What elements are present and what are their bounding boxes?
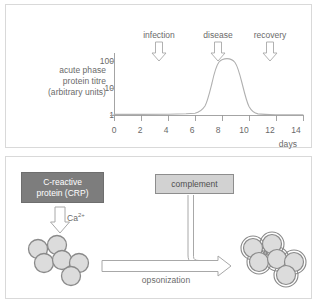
bacterium-circle (277, 266, 296, 285)
bacterial-cluster-unopsonized (29, 236, 89, 286)
crp-activation-down-arrow-icon (51, 207, 70, 233)
bacterium-circle (35, 254, 54, 273)
opsonization-block-arrow-icon (102, 256, 231, 276)
bacterium-circle (62, 267, 81, 286)
diagram-svg (0, 0, 317, 304)
bacterium-circle (250, 253, 269, 272)
complement-connector-pipe (188, 195, 206, 266)
bacterial-cluster-opsonized (241, 232, 306, 287)
figure-root: acute phase protein titre (arbitrary uni… (0, 0, 317, 304)
